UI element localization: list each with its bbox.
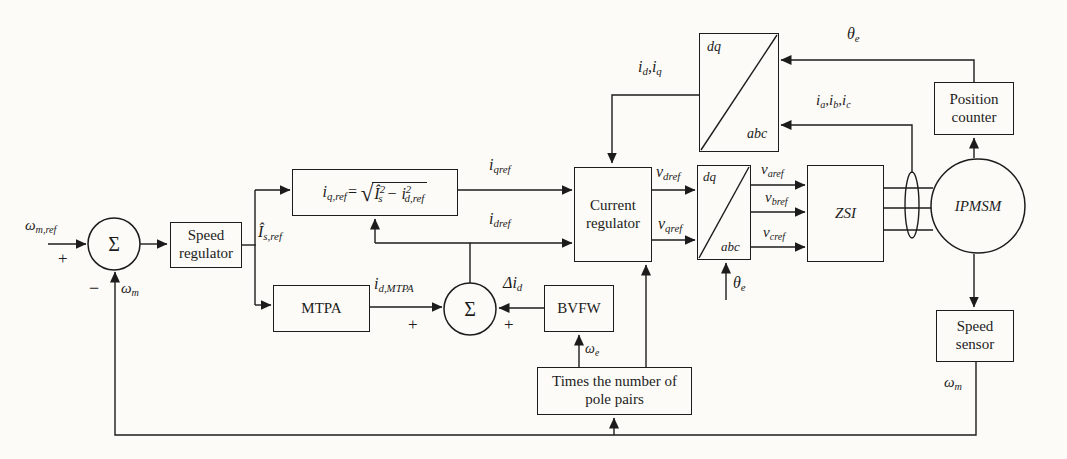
dq-corner-label-current: dq xyxy=(707,40,721,54)
label-omega-m-feedback: ωm xyxy=(121,281,139,296)
label-omega-m-ref: ωm,ref xyxy=(25,218,56,233)
label-delta-i-d: Δid xyxy=(503,275,522,291)
equation-radicand: Î2s − i2d,ref xyxy=(372,182,427,204)
bvfw-label: BVFW xyxy=(557,300,600,318)
zsi-inverter-block: ZSI xyxy=(807,165,884,262)
current-sensor-ellipse xyxy=(905,172,919,238)
plus-sign-mtpa: + xyxy=(408,316,418,333)
label-v-bref: vbref xyxy=(765,190,788,205)
control-block-diagram: Speed regulator iq,ref= √ Î2s − i2d,ref … xyxy=(0,0,1067,459)
label-v-dref: vdref xyxy=(656,164,680,180)
position-counter-label: Position counter xyxy=(938,91,1010,126)
abc-corner-label-current: abc xyxy=(747,127,767,141)
speed-regulator-label: Speed regulator xyxy=(174,227,238,262)
zsi-label: ZSI xyxy=(835,205,856,223)
label-omega-m-sensor: ωm xyxy=(944,375,962,390)
label-theta-e-voltage: θe xyxy=(733,275,746,291)
label-i-abc: ia,ib,ic xyxy=(816,93,851,108)
current-regulator-label: Current regulator xyxy=(578,197,648,232)
label-i-dref: idref xyxy=(489,211,511,227)
label-omega-e: ωe xyxy=(585,342,599,356)
mtpa-label: MTPA xyxy=(301,300,341,318)
pole-pairs-block: Times the number of pole pairs xyxy=(537,367,692,415)
bvfw-block: BVFW xyxy=(544,285,614,332)
diagram-wires xyxy=(0,0,1067,459)
mtpa-block: MTPA xyxy=(273,285,370,332)
label-v-cref: vcref xyxy=(763,225,785,240)
label-i-qref: iqref xyxy=(489,157,511,173)
label-i-s-ref: Îs,ref xyxy=(258,224,282,240)
sigma-symbol-speed: Σ xyxy=(108,234,120,254)
abc-corner-label-voltage: abc xyxy=(721,240,740,253)
plus-sign-bvfw: + xyxy=(504,316,514,333)
equation-lhs: iq,ref= xyxy=(323,183,358,202)
label-i-d-mtpa: id,MTPA xyxy=(374,276,414,292)
label-v-aref: varef xyxy=(761,162,784,177)
position-counter-block: Position counter xyxy=(934,82,1014,135)
pole-pairs-label: Times the number of pole pairs xyxy=(541,373,688,408)
ipmsm-label: IPMSM xyxy=(955,199,1002,214)
current-regulator-block: Current regulator xyxy=(574,167,652,262)
dq-corner-label-voltage: dq xyxy=(703,170,716,183)
speed-sensor-block: Speed sensor xyxy=(936,310,1014,362)
label-i-d-i-q: id,iq xyxy=(638,59,662,75)
label-theta-e-top: θe xyxy=(847,26,860,42)
radical-sign: √ xyxy=(361,185,374,202)
minus-sign-speed-feedback: − xyxy=(89,279,99,297)
speed-sensor-label: Speed sensor xyxy=(940,318,1010,353)
iqref-equation-block: iq,ref= √ Î2s − i2d,ref xyxy=(292,169,458,216)
plus-sign-speed-ref: + xyxy=(58,250,68,267)
sigma-symbol-id: Σ xyxy=(464,299,476,319)
label-v-qref: vqref xyxy=(658,216,682,232)
speed-regulator-block: Speed regulator xyxy=(170,222,242,268)
